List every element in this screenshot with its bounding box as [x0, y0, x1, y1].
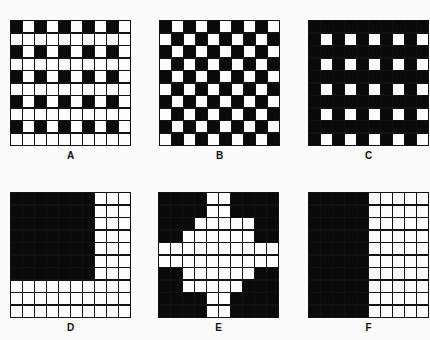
- white-cell: [393, 59, 404, 70]
- black-cell: [107, 71, 118, 82]
- black-cell: [345, 243, 356, 254]
- white-cell: [71, 96, 82, 107]
- white-cell: [417, 59, 428, 70]
- black-cell: [184, 46, 195, 57]
- white-cell: [393, 84, 404, 95]
- black-cell: [255, 206, 266, 217]
- white-cell: [405, 218, 416, 229]
- panel-a: A: [10, 20, 131, 161]
- black-cell: [357, 268, 368, 279]
- white-cell: [11, 293, 22, 304]
- black-cell: [220, 59, 231, 70]
- black-cell: [83, 46, 94, 57]
- black-cell: [357, 218, 368, 229]
- white-cell: [393, 231, 404, 242]
- white-cell: [231, 268, 242, 279]
- white-cell: [256, 134, 267, 145]
- black-cell: [159, 218, 170, 229]
- black-cell: [184, 21, 195, 32]
- black-cell: [333, 281, 344, 292]
- black-cell: [71, 193, 82, 204]
- white-cell: [417, 206, 428, 217]
- black-cell: [159, 231, 170, 242]
- white-cell: [207, 218, 218, 229]
- black-cell: [231, 206, 242, 217]
- white-cell: [59, 293, 70, 304]
- black-cell: [345, 231, 356, 242]
- white-cell: [183, 281, 194, 292]
- white-cell: [417, 281, 428, 292]
- white-cell: [369, 84, 380, 95]
- white-cell: [107, 256, 118, 267]
- black-cell: [71, 268, 82, 279]
- white-cell: [232, 109, 243, 120]
- white-cell: [207, 293, 218, 304]
- white-cell: [196, 121, 207, 132]
- black-cell: [23, 268, 34, 279]
- black-cell: [59, 71, 70, 82]
- white-cell: [219, 268, 230, 279]
- panel-d: D: [10, 192, 131, 333]
- black-cell: [345, 256, 356, 267]
- white-cell: [219, 218, 230, 229]
- white-cell: [11, 109, 22, 120]
- black-cell: [255, 268, 266, 279]
- white-cell: [369, 206, 380, 217]
- white-cell: [405, 206, 416, 217]
- white-cell: [393, 134, 404, 145]
- black-cell: [160, 96, 171, 107]
- white-cell: [393, 256, 404, 267]
- white-cell: [23, 134, 34, 145]
- white-cell: [219, 306, 230, 317]
- black-cell: [357, 109, 368, 120]
- black-cell: [333, 193, 344, 204]
- black-cell: [345, 121, 356, 132]
- white-cell: [107, 193, 118, 204]
- white-cell: [107, 134, 118, 145]
- white-cell: [95, 21, 106, 32]
- black-cell: [321, 71, 332, 82]
- black-cell: [171, 281, 182, 292]
- black-cell: [35, 256, 46, 267]
- white-cell: [172, 96, 183, 107]
- white-cell: [267, 243, 278, 254]
- white-cell: [160, 59, 171, 70]
- white-cell: [119, 71, 130, 82]
- black-cell: [357, 306, 368, 317]
- black-cell: [243, 293, 254, 304]
- white-cell: [393, 193, 404, 204]
- black-cell: [172, 34, 183, 45]
- black-cell: [23, 206, 34, 217]
- black-cell: [47, 206, 58, 217]
- white-cell: [393, 206, 404, 217]
- white-cell: [184, 34, 195, 45]
- white-cell: [208, 109, 219, 120]
- white-cell: [83, 306, 94, 317]
- black-cell: [417, 21, 428, 32]
- black-cell: [231, 306, 242, 317]
- black-cell: [59, 206, 70, 217]
- white-cell: [405, 231, 416, 242]
- white-cell: [11, 281, 22, 292]
- white-cell: [232, 34, 243, 45]
- black-cell: [309, 218, 320, 229]
- black-cell: [268, 134, 279, 145]
- white-cell: [243, 243, 254, 254]
- black-cell: [83, 96, 94, 107]
- white-cell: [220, 21, 231, 32]
- black-cell: [35, 243, 46, 254]
- black-cell: [369, 46, 380, 57]
- white-cell: [219, 281, 230, 292]
- white-cell: [417, 109, 428, 120]
- black-cell: [333, 121, 344, 132]
- white-cell: [184, 59, 195, 70]
- white-cell: [47, 96, 58, 107]
- white-cell: [119, 306, 130, 317]
- white-cell: [417, 256, 428, 267]
- black-cell: [71, 206, 82, 217]
- white-cell: [321, 134, 332, 145]
- black-cell: [208, 121, 219, 132]
- white-cell: [255, 243, 266, 254]
- white-cell: [196, 21, 207, 32]
- black-cell: [333, 243, 344, 254]
